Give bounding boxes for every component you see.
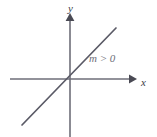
y-axis-label: y: [67, 2, 73, 14]
coordinate-plane-figure: x y m > 0: [0, 0, 157, 137]
figure-background: [0, 0, 157, 137]
x-axis-label: x: [140, 76, 146, 88]
slope-annotation-label: m > 0: [89, 52, 116, 64]
figure-container: x y m > 0: [0, 0, 157, 137]
